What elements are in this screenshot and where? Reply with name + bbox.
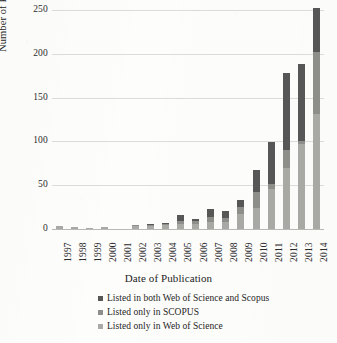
legend-swatch-icon [98, 296, 103, 301]
bar-series-container [52, 10, 324, 229]
bar-segment [298, 144, 305, 229]
bar-segment [147, 226, 154, 230]
bar-segment [237, 214, 244, 229]
x-axis-baseline [52, 229, 324, 230]
y-tick-label: 200 [8, 49, 48, 59]
legend-label: Listed in both Web of Science and Scopus [107, 293, 269, 303]
bar-segment [207, 222, 214, 229]
bar-column [56, 226, 63, 230]
x-tick-label: 2011 [275, 243, 285, 262]
bar-column [313, 8, 320, 229]
bar-segment [162, 225, 169, 229]
bar-column [268, 142, 275, 229]
legend-swatch-icon [98, 324, 103, 329]
bar-segment [268, 189, 275, 229]
bar-segment [313, 114, 320, 229]
bar-segment [237, 207, 244, 214]
legend-item: Listed only in Web of Science [98, 320, 328, 332]
bar-segment [222, 222, 229, 229]
x-tick-label: 2012 [290, 242, 300, 262]
bar-segment [101, 227, 108, 229]
x-tick-label: 2004 [169, 242, 179, 262]
bar-column [162, 223, 169, 229]
bar-segment [86, 228, 93, 229]
bar-segment [132, 226, 139, 230]
legend-item: Listed only in SCOPUS [98, 306, 328, 318]
bar-segment [268, 142, 275, 184]
bar-segment [56, 226, 63, 230]
bar-segment [192, 224, 199, 229]
x-tick-label: 2008 [230, 242, 240, 262]
publications-bar-chart-figure: 050100150200250 Number of Publications 1… [0, 0, 337, 343]
x-tick-label: 2007 [215, 242, 225, 262]
bar-segment [283, 168, 290, 229]
bar-segment [222, 211, 229, 218]
bar-column [132, 225, 139, 229]
x-tick-label: 2006 [200, 242, 210, 262]
x-tick-label: 2001 [124, 242, 134, 262]
bar-column [192, 219, 199, 230]
y-tick-label: 250 [8, 5, 48, 15]
bar-segment [298, 64, 305, 141]
y-tick-label: 0 [8, 224, 48, 234]
bar-column [222, 211, 229, 229]
x-tick-label: 2010 [260, 242, 270, 262]
x-tick-label: 2013 [305, 242, 315, 262]
legend-item: Listed in both Web of Science and Scopus [98, 292, 328, 304]
bar-column [283, 73, 290, 229]
x-tick-label: 2005 [184, 242, 194, 262]
x-tick-label: 2003 [154, 242, 164, 262]
bar-column [86, 228, 93, 229]
x-tick-label: 2014 [320, 242, 330, 262]
bar-column [253, 170, 260, 229]
bar-segment [177, 224, 184, 229]
x-tick-label: 2002 [139, 242, 149, 262]
legend-label: Listed only in Web of Science [107, 321, 223, 331]
bar-segment [71, 227, 78, 229]
bar-column [71, 227, 78, 229]
y-tick-label: 100 [8, 136, 48, 146]
x-tick-label: 1999 [94, 242, 104, 262]
bar-column [207, 209, 214, 229]
legend-label: Listed only in SCOPUS [107, 307, 199, 317]
bar-segment [313, 8, 320, 52]
chart-legend: Listed in both Web of Science and Scopus… [98, 292, 328, 334]
bar-column [101, 227, 108, 229]
bar-segment [253, 170, 260, 192]
x-tick-label: 1997 [64, 242, 74, 262]
x-axis-tick-labels: 1997199819992000200120022003200420052006… [52, 232, 324, 272]
bar-segment [207, 209, 214, 217]
y-axis-title: Number of Publications [0, 0, 8, 52]
x-tick-label: 2000 [109, 242, 119, 262]
bar-segment [253, 192, 260, 208]
y-tick-label: 50 [8, 180, 48, 190]
legend-swatch-icon [98, 310, 103, 315]
bar-column [147, 224, 154, 229]
bar-segment [283, 150, 290, 168]
bar-segment [313, 52, 320, 114]
bar-segment [253, 208, 260, 229]
bar-column [237, 200, 244, 229]
x-axis-title: Date of Publication [0, 272, 337, 284]
bar-column [298, 64, 305, 229]
x-tick-label: 1998 [79, 242, 89, 262]
x-tick-label: 2009 [245, 242, 255, 262]
bar-column [177, 215, 184, 229]
bar-segment [283, 73, 290, 150]
bar-segment [237, 200, 244, 207]
y-tick-label: 150 [8, 93, 48, 103]
